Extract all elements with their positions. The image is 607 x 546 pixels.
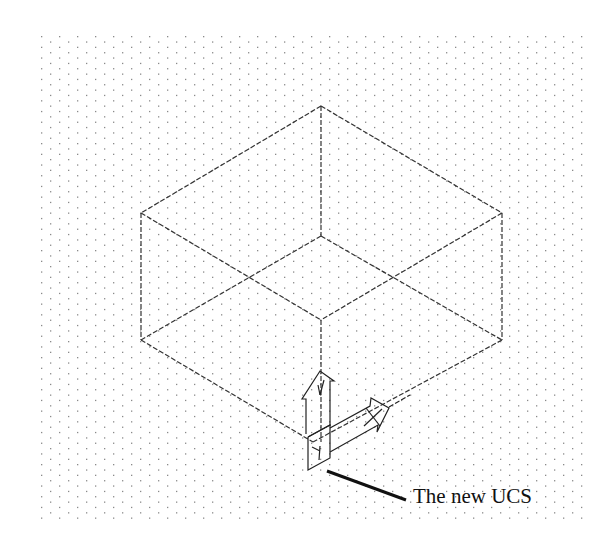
ucs-y-arrow-icon xyxy=(302,371,334,434)
box-edge-hidden xyxy=(321,236,502,340)
ucs-icon xyxy=(302,371,410,470)
isometric-drawing-canvas xyxy=(0,0,607,546)
isometric-dot-grid xyxy=(41,36,582,519)
annotation-label: The new UCS xyxy=(413,484,532,509)
ucs-x-label-mark xyxy=(364,409,382,426)
ucs-y-label-mark xyxy=(318,385,320,395)
box-edge xyxy=(313,340,502,442)
annotation-leader-line xyxy=(327,471,406,500)
ucs-axis-extension xyxy=(389,395,410,407)
ucs-origin-box xyxy=(308,425,330,470)
box-edge xyxy=(141,340,313,442)
ucs-z-mark xyxy=(312,447,320,451)
ucs-z-mark xyxy=(319,446,320,460)
